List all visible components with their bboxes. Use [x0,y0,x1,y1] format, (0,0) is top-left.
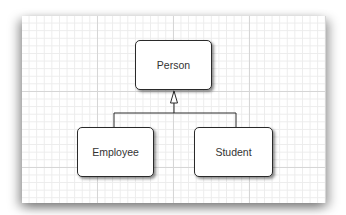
class-box-person[interactable]: Person [135,40,212,90]
class-box-employee[interactable]: Employee [77,127,154,177]
class-box-student[interactable]: Student [194,127,273,177]
class-label-person: Person [157,59,190,71]
class-label-student: Student [215,146,251,158]
class-label-employee: Employee [92,146,139,158]
